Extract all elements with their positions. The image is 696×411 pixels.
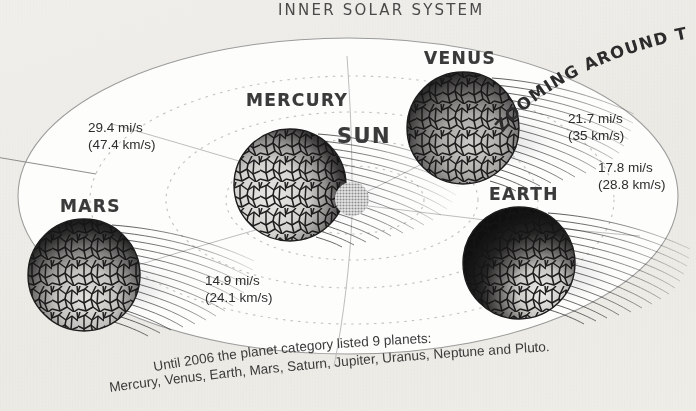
page-title: INNER SOLAR SYSTEM bbox=[278, 1, 484, 19]
speed-mercury: 29.4 mi/s (47.4 km/s) bbox=[88, 119, 156, 153]
label-mars: MARS bbox=[60, 196, 121, 216]
sun-body bbox=[335, 182, 369, 216]
label-venus: VENUS bbox=[424, 48, 496, 68]
speed-earth: 17.8 mi/s (28.8 km/s) bbox=[598, 159, 666, 193]
speed-earth-km: (28.8 km/s) bbox=[598, 176, 666, 193]
speed-mars: 14.9 mi/s (24.1 km/s) bbox=[205, 272, 273, 306]
infographic-canvas: ZOOMING AROUND THE SUN Until 2006 the pl… bbox=[0, 0, 696, 411]
speed-mercury-km: (47.4 km/s) bbox=[88, 136, 156, 153]
label-sun: SUN bbox=[337, 124, 391, 148]
speed-venus-km: (35 km/s) bbox=[568, 127, 624, 144]
speed-venus-mi: 21.7 mi/s bbox=[568, 111, 623, 126]
speed-mars-km: (24.1 km/s) bbox=[205, 289, 273, 306]
label-mercury: MERCURY bbox=[246, 90, 348, 110]
speed-mars-mi: 14.9 mi/s bbox=[205, 273, 260, 288]
speed-mercury-mi: 29.4 mi/s bbox=[88, 120, 143, 135]
speed-earth-mi: 17.8 mi/s bbox=[598, 160, 653, 175]
label-earth: EARTH bbox=[489, 184, 559, 204]
speed-venus: 21.7 mi/s (35 km/s) bbox=[568, 110, 624, 144]
